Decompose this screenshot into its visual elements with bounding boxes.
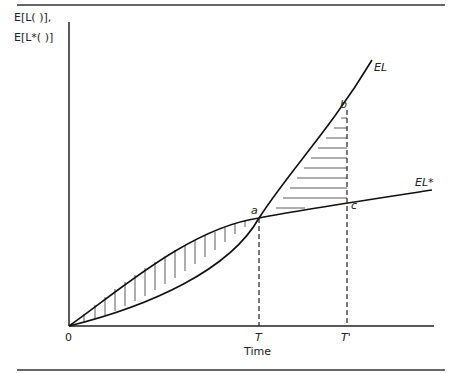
x-axis-label: Time: [243, 345, 271, 358]
origin-label: 0: [65, 331, 72, 344]
point-b-label: b: [340, 98, 347, 111]
y-axis-label-line1: E[L( )],: [14, 11, 51, 24]
point-a-label: a: [251, 204, 258, 217]
y-axis-label-line2: E[L*( )]: [14, 31, 53, 44]
curve-label-EL-star: EL*: [415, 176, 434, 189]
diagram: E[L( )], E[L*( )] 0 T T' Time EL EL* a b…: [0, 0, 451, 373]
hatch-horizontal: [276, 118, 347, 208]
point-c-label: c: [351, 199, 357, 212]
hatch-vertical: [84, 221, 245, 322]
tick-T: T: [255, 331, 263, 344]
curve-EL: [69, 60, 372, 326]
tick-T-prime: T': [341, 331, 351, 344]
curve-label-EL: EL: [374, 61, 387, 74]
